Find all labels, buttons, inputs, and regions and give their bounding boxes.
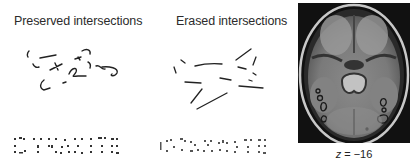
z-value: −16	[354, 148, 373, 160]
equals-sign: =	[341, 148, 354, 160]
brain-mri-axial-slice	[298, 3, 410, 143]
brain-image	[298, 3, 410, 143]
erased-intersections-stimulus	[0, 0, 290, 164]
degraded-word-erased	[160, 138, 266, 154]
slice-coordinate-label: z = −16	[298, 148, 410, 160]
